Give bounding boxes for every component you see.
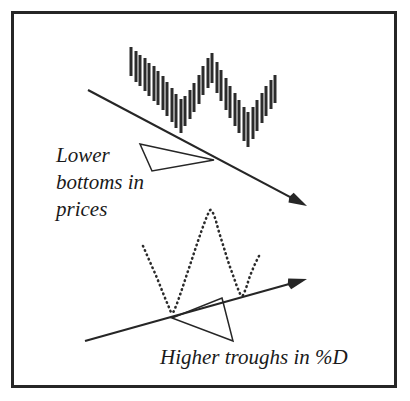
figure-canvas: Lower bottoms in prices Higher troughs i…: [0, 0, 410, 401]
lower-bottoms-line-2: bottoms in: [56, 170, 144, 194]
higher-troughs-annotation: Higher troughs in %D: [159, 345, 348, 369]
divergence-figure: Lower bottoms in prices Higher troughs i…: [0, 0, 410, 401]
lower-bottoms-line-1: Lower: [55, 143, 111, 167]
higher-troughs-line-1: Higher troughs in %D: [159, 345, 348, 369]
lower-bottoms-line-3: prices: [54, 197, 107, 221]
